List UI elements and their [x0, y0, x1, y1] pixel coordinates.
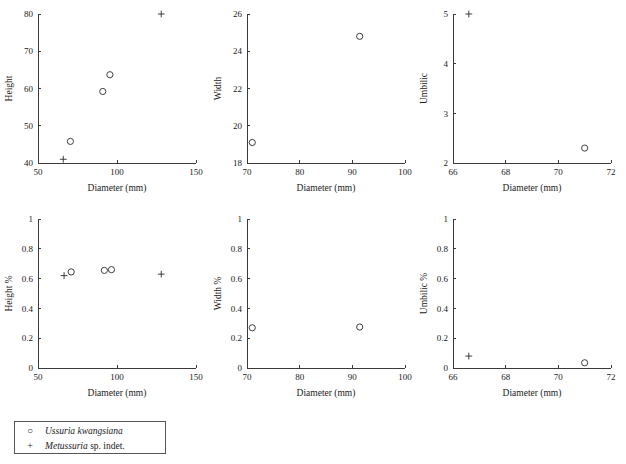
- x-tick-label: 100: [398, 372, 412, 382]
- legend-item-label: Ussuria kwangsiana: [45, 426, 123, 436]
- x-tick-label: 150: [189, 167, 203, 177]
- y-axis-title: Width %: [213, 277, 223, 311]
- y-tick-label: 2: [444, 158, 449, 168]
- data-point-circle: [108, 267, 114, 273]
- x-tick-label: 70: [243, 372, 253, 382]
- y-tick-label: 0.4: [22, 304, 34, 314]
- y-axis-title: Umbilic %: [419, 273, 429, 315]
- x-axis-title: Diameter (mm): [88, 388, 147, 399]
- axis-lines: [247, 219, 405, 368]
- x-tick-label: 80: [295, 372, 305, 382]
- y-tick-label: 80: [24, 9, 34, 19]
- scatter-plot-width-percent-vs-diameter: 00.20.40.60.81708090100Diameter (mm)Widt…: [209, 205, 419, 410]
- y-axis-title: Height %: [4, 275, 14, 311]
- y-tick-label: 4: [444, 59, 449, 69]
- y-tick-label: 3: [444, 109, 449, 119]
- data-point-cross: [158, 271, 165, 278]
- panel-height-vs-diameter: 405060708050100150Diameter (mm)Height: [0, 0, 210, 205]
- legend-genus-species: Metussuria: [45, 441, 88, 451]
- data-point-circle: [67, 138, 73, 144]
- x-tick-label: 90: [348, 372, 358, 382]
- data-point-circle: [68, 269, 74, 275]
- y-axis-title: Umbilic: [419, 73, 429, 104]
- y-tick-label: 1: [444, 214, 449, 224]
- data-point-circle: [582, 360, 588, 366]
- y-tick-label: 60: [24, 84, 34, 94]
- scatter-plot-height-vs-diameter: 405060708050100150Diameter (mm)Height: [0, 0, 210, 205]
- x-tick-label: 90: [348, 167, 358, 177]
- x-tick-label: 50: [34, 372, 44, 382]
- y-tick-label: 50: [24, 121, 34, 131]
- plus-cross-marker-icon: +: [15, 441, 45, 451]
- data-point-circle: [249, 325, 255, 331]
- data-point-cross: [465, 353, 472, 360]
- figure-panel-grid: 405060708050100150Diameter (mm)Height 18…: [0, 0, 626, 464]
- data-point-circle: [357, 33, 363, 39]
- x-tick-label: 100: [110, 372, 124, 382]
- y-tick-label: 0.2: [231, 333, 242, 343]
- scatter-plot-umbilic-percent-vs-diameter: 00.20.40.60.8166687072Diameter (mm)Umbil…: [415, 205, 625, 410]
- x-tick-label: 70: [554, 372, 564, 382]
- data-point-circle: [100, 88, 106, 94]
- scatter-plot-umbilic-vs-diameter: 234566687072Diameter (mm)Umbilic: [415, 0, 625, 205]
- y-tick-label: 22: [233, 84, 242, 94]
- y-tick-label: 0.4: [437, 304, 449, 314]
- y-axis-title: Height: [4, 75, 14, 101]
- scatter-plot-height-percent-vs-diameter: 00.20.40.60.8150100150Diameter (mm)Heigh…: [0, 205, 210, 410]
- data-point-circle: [249, 139, 255, 145]
- y-tick-label: 1: [29, 214, 34, 224]
- y-tick-label: 26: [233, 9, 243, 19]
- axis-lines: [38, 219, 196, 368]
- y-tick-label: 0.2: [437, 333, 448, 343]
- legend-box: ○ Ussuria kwangsiana + Metussuria sp. in…: [14, 421, 166, 454]
- data-point-circle: [107, 72, 113, 78]
- x-axis-title: Diameter (mm): [297, 388, 356, 399]
- panel-umbilic-percent-vs-diameter: 00.20.40.60.8166687072Diameter (mm)Umbil…: [415, 205, 625, 410]
- panel-width-percent-vs-diameter: 00.20.40.60.81708090100Diameter (mm)Widt…: [209, 205, 419, 410]
- y-tick-label: 40: [24, 158, 34, 168]
- y-tick-label: 0.6: [22, 274, 34, 284]
- x-tick-label: 150: [189, 372, 203, 382]
- legend-item-label: Metussuria sp. indet.: [45, 441, 125, 451]
- axis-lines: [38, 14, 196, 163]
- x-tick-label: 70: [243, 167, 253, 177]
- x-tick-label: 100: [398, 167, 412, 177]
- open-circle-marker-icon: ○: [15, 426, 45, 436]
- y-axis-title: Width: [213, 77, 223, 101]
- legend-item-metussuria-sp-indet: + Metussuria sp. indet.: [15, 438, 165, 454]
- data-point-cross: [465, 11, 472, 18]
- legend-qualifier: sp. indet.: [88, 441, 125, 451]
- x-axis-title: Diameter (mm): [503, 183, 562, 194]
- x-tick-label: 50: [34, 167, 44, 177]
- data-point-cross: [158, 11, 165, 18]
- x-tick-label: 100: [110, 167, 124, 177]
- x-tick-label: 72: [607, 372, 616, 382]
- axis-lines: [453, 219, 611, 368]
- y-tick-label: 0.6: [231, 274, 243, 284]
- y-tick-label: 0.4: [231, 304, 243, 314]
- data-point-circle: [357, 324, 363, 330]
- x-axis-title: Diameter (mm): [88, 183, 147, 194]
- data-point-cross: [60, 156, 67, 163]
- legend-item-ussuria-kwangsiana: ○ Ussuria kwangsiana: [15, 423, 165, 439]
- panel-height-percent-vs-diameter: 00.20.40.60.8150100150Diameter (mm)Heigh…: [0, 205, 210, 410]
- y-tick-label: 18: [233, 158, 243, 168]
- x-axis-title: Diameter (mm): [297, 183, 356, 194]
- y-tick-label: 1: [238, 214, 243, 224]
- data-point-cross: [61, 272, 68, 279]
- x-tick-label: 70: [554, 167, 564, 177]
- axis-lines: [453, 14, 611, 163]
- x-tick-label: 72: [607, 167, 616, 177]
- y-tick-label: 0.6: [437, 274, 449, 284]
- axis-lines: [247, 14, 405, 163]
- x-tick-label: 66: [449, 372, 459, 382]
- x-tick-label: 68: [501, 372, 511, 382]
- y-tick-label: 5: [444, 9, 449, 19]
- y-tick-label: 0.8: [437, 244, 449, 254]
- y-tick-label: 0.8: [22, 244, 34, 254]
- y-tick-label: 20: [233, 121, 243, 131]
- x-tick-label: 66: [449, 167, 459, 177]
- data-point-circle: [582, 145, 588, 151]
- panel-width-vs-diameter: 1820222426708090100Diameter (mm)Width: [209, 0, 419, 205]
- data-point-circle: [101, 267, 107, 273]
